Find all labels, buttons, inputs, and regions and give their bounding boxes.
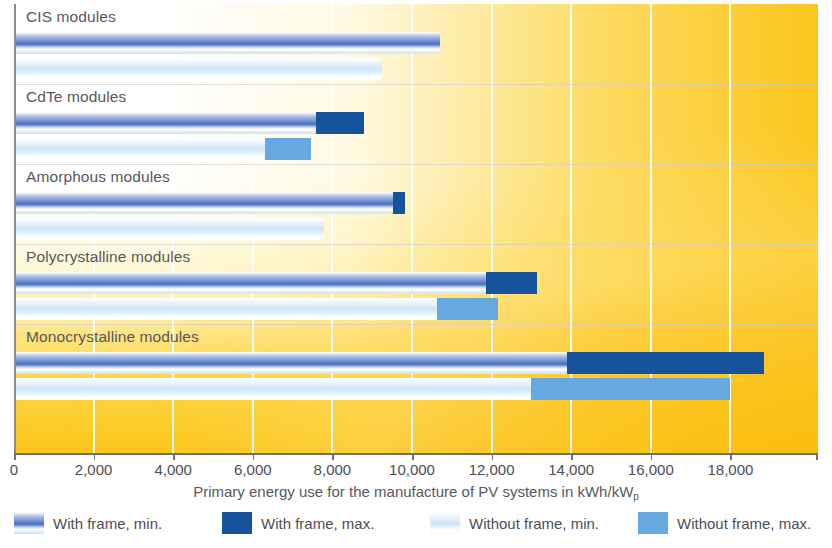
legend-label-0: With frame, min. — [53, 515, 162, 532]
tick-0 — [14, 453, 16, 460]
row-separator — [14, 84, 818, 85]
category-label-3: Polycrystalline modules — [26, 248, 190, 266]
tick-6000 — [253, 453, 255, 460]
bar-with-frame-min-1 — [14, 112, 316, 134]
plot-area: CIS modulesCdTe modulesAmorphous modules… — [14, 4, 818, 454]
tick-axis-end — [816, 453, 818, 460]
tick-4000 — [173, 453, 175, 460]
bar-without-frame-min-4 — [14, 378, 531, 400]
legend-item-2[interactable]: Without frame, min. — [430, 512, 599, 534]
tick-label-12000: 12,000 — [469, 461, 515, 478]
legend-label-1: With frame, max. — [261, 515, 374, 532]
tick-18000 — [730, 453, 732, 460]
tick-label-10000: 10,000 — [389, 461, 435, 478]
tick-label-4000: 4,000 — [154, 461, 192, 478]
legend-item-0[interactable]: With frame, min. — [14, 512, 162, 534]
legend-swatch-wof-min — [430, 512, 460, 534]
bar-without-frame-min-0 — [14, 58, 382, 80]
tick-2000 — [94, 453, 96, 460]
row-separator — [14, 164, 818, 165]
legend-swatch-wof-max — [638, 512, 668, 534]
tick-12000 — [492, 453, 494, 460]
legend-item-1[interactable]: With frame, max. — [222, 512, 374, 534]
x-axis-title: Primary energy use for the manufacture o… — [0, 483, 832, 502]
row-separator — [14, 244, 818, 245]
tick-label-6000: 6,000 — [234, 461, 272, 478]
tick-16000 — [651, 453, 653, 460]
category-label-2: Amorphous modules — [26, 168, 170, 186]
bar-without-frame-min-1 — [14, 138, 265, 160]
legend-swatch-wf-max — [222, 512, 252, 534]
legend-swatch-wf-min — [14, 512, 44, 534]
bar-with-frame-min-3 — [14, 272, 486, 294]
legend-label-2: Without frame, min. — [469, 515, 599, 532]
category-label-4: Monocrystalline modules — [26, 328, 199, 346]
tick-10000 — [412, 453, 414, 460]
row-separator — [14, 324, 818, 325]
x-axis-line — [14, 453, 818, 455]
tick-label-14000: 14,000 — [548, 461, 594, 478]
bar-with-frame-min-0 — [14, 32, 440, 54]
legend: With frame, min.With frame, max.Without … — [0, 512, 832, 542]
legend-item-3[interactable]: Without frame, max. — [638, 512, 811, 534]
x-axis-title-text: Primary energy use for the manufacture o… — [193, 483, 633, 500]
category-label-1: CdTe modules — [26, 88, 126, 106]
x-axis-title-subscript: p — [633, 491, 639, 502]
legend-label-3: Without frame, max. — [677, 515, 811, 532]
tick-label-2000: 2,000 — [75, 461, 113, 478]
y-axis-line — [14, 4, 16, 454]
tick-14000 — [571, 453, 573, 460]
pv-primary-energy-chart: CIS modulesCdTe modulesAmorphous modules… — [0, 0, 832, 548]
tick-8000 — [332, 453, 334, 460]
tick-label-0: 0 — [10, 461, 18, 478]
tick-label-18000: 18,000 — [707, 461, 753, 478]
bar-with-frame-min-4 — [14, 352, 567, 374]
bar-with-frame-min-2 — [14, 192, 393, 214]
bar-without-frame-min-3 — [14, 298, 437, 320]
bar-without-frame-min-2 — [14, 218, 324, 240]
category-label-0: CIS modules — [26, 8, 116, 26]
tick-label-16000: 16,000 — [628, 461, 674, 478]
tick-label-8000: 8,000 — [314, 461, 352, 478]
